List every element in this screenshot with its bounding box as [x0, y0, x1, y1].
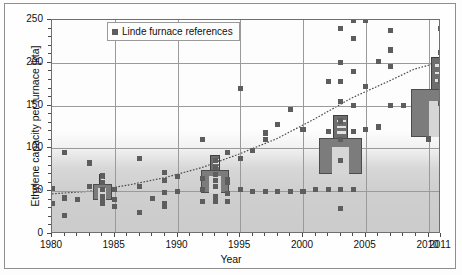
furnace-stack-band [337, 126, 347, 128]
data-point-marker [351, 19, 356, 23]
y-axis-tick-label: 50 [13, 185, 43, 195]
data-point-marker [363, 84, 368, 89]
y-axis-tick-label: 250 [13, 14, 43, 24]
data-point-marker [62, 150, 67, 155]
data-point-marker [200, 176, 205, 181]
data-point-marker [62, 213, 67, 218]
x-axis-minor-tick [139, 233, 140, 236]
y-axis-minor-tick [48, 28, 51, 29]
furnace-pictogram [411, 57, 440, 138]
data-point-marker [438, 79, 440, 84]
y-axis-minor-tick [48, 156, 51, 157]
gridline-vertical [178, 20, 179, 232]
x-axis-minor-tick [126, 233, 127, 236]
x-axis-title: Year [0, 253, 462, 265]
plot-area [51, 19, 440, 233]
data-point-marker [112, 204, 117, 209]
data-point-marker [225, 150, 230, 155]
data-point-marker [288, 107, 293, 112]
x-axis-tick [365, 233, 366, 237]
data-point-marker [275, 189, 280, 194]
data-point-marker [338, 99, 343, 104]
data-point-marker [213, 184, 218, 189]
data-point-marker [225, 180, 230, 185]
y-axis-minor-tick [48, 36, 51, 37]
data-point-marker [112, 197, 117, 202]
data-point-marker [300, 127, 305, 132]
gridline-vertical [240, 20, 241, 232]
furnace-stack [431, 57, 440, 91]
x-axis-tick-label: 1995 [219, 240, 259, 250]
data-point-marker [363, 19, 368, 23]
legend-square-marker-icon [112, 29, 118, 35]
x-axis-tick [114, 233, 115, 237]
data-point-marker [238, 187, 243, 192]
x-axis-minor-tick [214, 233, 215, 236]
x-axis-tick-label: 2011 [420, 240, 460, 250]
x-axis-minor-tick [315, 233, 316, 236]
data-point-marker [376, 124, 381, 129]
data-point-marker [438, 101, 440, 106]
x-axis-minor-tick [440, 233, 441, 236]
data-point-marker [250, 189, 255, 194]
data-point-marker [175, 189, 180, 194]
data-point-marker [87, 160, 92, 165]
data-point-marker [213, 165, 218, 170]
data-point-marker [351, 187, 356, 192]
data-point-marker [388, 103, 393, 108]
x-axis-minor-tick [402, 233, 403, 236]
data-point-marker [62, 195, 67, 200]
data-point-marker [213, 199, 218, 204]
data-point-marker [388, 47, 393, 52]
x-axis-tick-label: 2000 [282, 240, 322, 250]
y-axis-tick [47, 105, 51, 106]
x-axis-minor-tick [227, 233, 228, 236]
x-axis-tick [51, 233, 52, 237]
x-axis-minor-tick [89, 233, 90, 236]
data-point-marker [388, 28, 393, 33]
x-axis-minor-tick [390, 233, 391, 236]
data-point-marker [426, 136, 431, 141]
data-point-marker [162, 190, 167, 195]
y-axis-minor-tick [48, 224, 51, 225]
data-point-marker [87, 184, 92, 189]
y-axis-minor-tick [48, 165, 51, 166]
furnace-stack-band [337, 131, 347, 133]
data-point-marker [263, 137, 268, 142]
x-axis-minor-tick [327, 233, 328, 236]
y-axis-minor-tick [48, 79, 51, 80]
x-axis-tick [177, 233, 178, 237]
data-point-marker [200, 199, 205, 204]
x-axis-minor-tick [252, 233, 253, 236]
data-point-marker [238, 86, 243, 91]
data-point-marker [326, 79, 331, 84]
data-point-marker [213, 178, 218, 183]
data-point-marker [376, 59, 381, 64]
y-axis-minor-tick [48, 139, 51, 140]
gridline-vertical [366, 20, 367, 232]
x-axis-minor-tick [64, 233, 65, 236]
x-axis-minor-tick [76, 233, 77, 236]
y-axis-tick [47, 62, 51, 63]
data-point-marker [388, 64, 393, 69]
x-axis-minor-tick [202, 233, 203, 236]
data-point-marker [263, 130, 268, 135]
data-point-marker [326, 129, 331, 134]
data-point-marker [213, 172, 218, 177]
data-point-marker [200, 137, 205, 142]
x-axis-minor-tick [151, 233, 152, 236]
x-axis-minor-tick [340, 233, 341, 236]
data-point-marker [225, 199, 230, 204]
x-axis-tick [302, 233, 303, 237]
y-axis-minor-tick [48, 199, 51, 200]
data-point-marker [351, 129, 356, 134]
x-axis-minor-tick [352, 233, 353, 236]
x-axis-minor-tick [277, 233, 278, 236]
data-point-marker [162, 178, 167, 183]
data-point-marker [162, 204, 167, 209]
data-point-marker [338, 60, 343, 65]
data-point-marker [137, 210, 142, 215]
y-axis-tick-label: 0 [13, 228, 43, 238]
gridline-vertical [303, 20, 304, 232]
data-point-marker [338, 206, 343, 211]
